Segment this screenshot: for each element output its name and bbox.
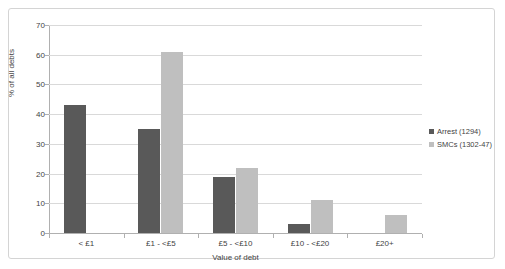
legend-item[interactable]: Arrest (1294) bbox=[429, 127, 493, 136]
category-axis-tick-mark bbox=[273, 234, 274, 238]
bar bbox=[138, 129, 160, 233]
gridline bbox=[49, 25, 422, 26]
category-axis-tick-label: < £1 bbox=[49, 239, 124, 248]
value-axis-tick-label: 0 bbox=[15, 229, 45, 238]
chart-container: 010203040506070 % of all debts < £1£1 - … bbox=[8, 8, 495, 259]
value-axis-title: % of all debts bbox=[7, 49, 16, 97]
legend-item[interactable]: SMCs (1302-47) bbox=[429, 140, 493, 149]
bar bbox=[64, 105, 86, 233]
category-axis-tick-mark bbox=[124, 234, 125, 238]
bar bbox=[385, 215, 407, 233]
value-axis-tick-label: 60 bbox=[15, 50, 45, 59]
value-axis-tick-label: 30 bbox=[15, 139, 45, 148]
legend-swatch-icon bbox=[429, 142, 434, 147]
chart-legend: Arrest (1294)SMCs (1302-47) bbox=[429, 127, 493, 153]
value-axis-tick-mark bbox=[45, 203, 49, 204]
value-axis-tick-mark bbox=[45, 84, 49, 85]
value-axis-tick-label: 70 bbox=[15, 21, 45, 30]
gridline bbox=[49, 144, 422, 145]
legend-swatch-icon bbox=[429, 129, 434, 134]
gridline bbox=[49, 84, 422, 85]
bar bbox=[213, 177, 235, 233]
value-axis-tick-label: 10 bbox=[15, 199, 45, 208]
value-axis-tick-mark bbox=[45, 25, 49, 26]
gridline bbox=[49, 55, 422, 56]
category-axis-tick-label: £5 - <£10 bbox=[198, 239, 273, 248]
value-axis-tick-label: 40 bbox=[15, 110, 45, 119]
gridline bbox=[49, 114, 422, 115]
plot-area bbox=[49, 25, 422, 233]
bar bbox=[236, 168, 258, 233]
category-axis-tick-mark bbox=[198, 234, 199, 238]
value-axis-tick-mark bbox=[45, 114, 49, 115]
bar bbox=[288, 224, 310, 233]
legend-item-label: Arrest (1294) bbox=[437, 127, 481, 136]
category-axis-tick-label: £1 - <£5 bbox=[124, 239, 199, 248]
value-axis-tick-label: 50 bbox=[15, 80, 45, 89]
bar bbox=[161, 52, 183, 233]
value-axis-tick-mark bbox=[45, 174, 49, 175]
category-axis-title: Value of debt bbox=[49, 253, 422, 262]
value-axis-tick-label: 20 bbox=[15, 169, 45, 178]
legend-item-label: SMCs (1302-47) bbox=[437, 140, 492, 149]
bar bbox=[311, 200, 333, 233]
category-axis-tick-label: £10 - <£20 bbox=[273, 239, 348, 248]
category-axis-tick-mark bbox=[422, 234, 423, 238]
category-axis-tick-mark bbox=[49, 234, 50, 238]
value-axis-tick-mark bbox=[45, 144, 49, 145]
value-axis-tick-mark bbox=[45, 233, 49, 234]
value-axis-tick-mark bbox=[45, 55, 49, 56]
category-axis-tick-mark bbox=[347, 234, 348, 238]
category-axis-tick-label: £20+ bbox=[347, 239, 422, 248]
gridline bbox=[49, 233, 422, 234]
